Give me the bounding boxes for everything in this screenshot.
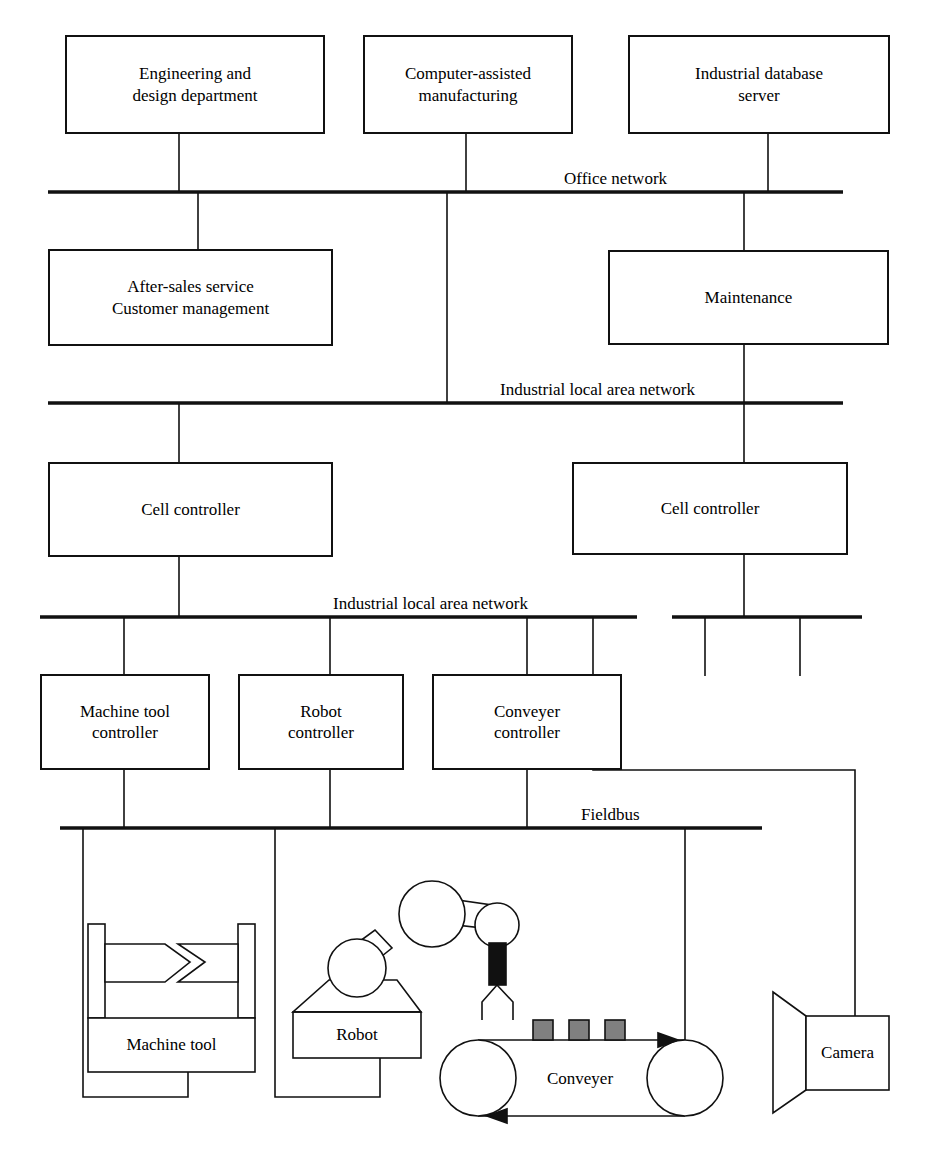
bus-label-office-network: Office network [561,170,670,187]
bus-label-fieldbus: Fieldbus [578,806,643,823]
node-label-line: Cell controller [141,499,240,520]
machine-tool-left-post [88,924,105,1018]
node-label-line: Conveyer [494,701,560,722]
conveyer-part-1 [533,1020,553,1040]
node-cell-controller-right[interactable]: Cell controller [572,462,848,555]
conveyer-part-2 [569,1020,589,1040]
diagram-canvas [0,0,928,1151]
node-label-line: Engineering and [132,63,257,84]
node-label-line: Machine tool [80,701,170,722]
conveyer-part-3 [605,1020,625,1040]
node-label-line: controller [494,722,560,743]
machine-tool-right-post [238,924,255,1018]
node-conveyer-controller[interactable]: Conveyer controller [432,674,622,770]
node-robot-controller[interactable]: Robot controller [238,674,404,770]
robot-elbow-joint [399,881,465,947]
camera-lens [773,992,806,1113]
node-maintenance[interactable]: Maintenance [608,250,889,345]
node-after-sales-customer[interactable]: After-sales service Customer management [48,249,333,346]
node-label-line: Maintenance [705,287,793,308]
equipment-label-robot: Robot [293,1026,421,1043]
node-label-line: Computer-assisted [405,63,531,84]
robot-gripper-left-prong [482,985,497,1020]
bus-label-industrial-lan-upper: Industrial local area network [497,381,698,398]
robot-wrist-joint [475,903,519,947]
node-industrial-database-server[interactable]: Industrial database server [628,35,890,134]
node-label-line: controller [288,722,354,743]
node-label-line: After-sales service [112,276,269,297]
node-label-line: design department [132,85,257,106]
node-label-line: Cell controller [661,498,760,519]
bus-label-industrial-lan-lower: Industrial local area network [330,595,531,612]
robot-shoulder-joint [328,939,386,997]
equipment-label-machine-tool: Machine tool [88,1036,255,1053]
node-label-line: Industrial database [695,63,823,84]
node-computer-assisted-manufacturing[interactable]: Computer-assisted manufacturing [363,35,573,134]
robot-gripper-shaft [489,943,506,985]
node-label-line: manufacturing [405,85,531,106]
conveyer-roller-right [647,1040,723,1116]
node-engineering-design[interactable]: Engineering and design department [65,35,325,134]
node-label-line: Customer management [112,298,269,319]
node-label-line: Robot [288,701,354,722]
equipment-label-conveyer: Conveyer [505,1070,655,1087]
machine-tool-left-arrow [105,944,190,982]
node-label-line: server [695,85,823,106]
node-cell-controller-left[interactable]: Cell controller [48,462,333,557]
node-machine-tool-controller[interactable]: Machine tool controller [40,674,210,770]
node-label-line: controller [80,722,170,743]
robot-gripper-right-prong [497,985,513,1020]
network-architecture-diagram: Engineering and design department Comput… [0,0,928,1151]
equipment-label-camera: Camera [806,1044,889,1061]
